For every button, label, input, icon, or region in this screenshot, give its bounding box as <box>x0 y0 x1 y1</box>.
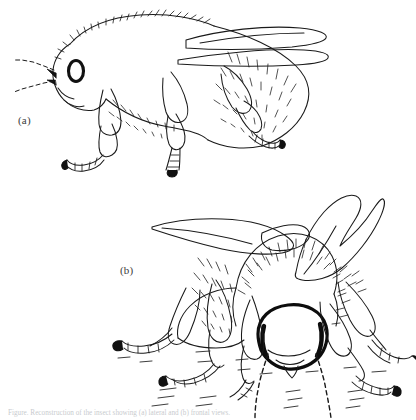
figure-caption: Figure. Reconstruction of the insect sho… <box>8 409 408 418</box>
panel-label-b: (b) <box>120 264 133 276</box>
figure-illustration <box>0 0 416 420</box>
figure-page: (a) (b) Figure. Reconstruction of the in… <box>0 0 416 420</box>
hind-leg-claw-a <box>279 140 285 148</box>
mid-leg-claw-a <box>167 170 177 177</box>
compound-eye-a <box>69 61 84 82</box>
panel-label-a: (a) <box>18 114 31 126</box>
figure-background <box>0 0 416 420</box>
left-outer-claw-b <box>113 341 123 351</box>
